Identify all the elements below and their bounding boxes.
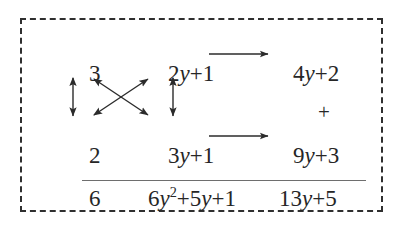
- summation-rule: [82, 180, 366, 181]
- bottom-binomial: 3y+1: [168, 144, 214, 167]
- sum-quadratic-variable: y: [160, 186, 170, 211]
- sum-quadratic-exponent: 2: [170, 184, 177, 200]
- dashed-figure-border: 3 2y+1 4y+2 + 2 3y+1 9y+3 6 6y2+5y+1 13y…: [20, 18, 383, 212]
- top-product-variable: y: [305, 61, 315, 86]
- sum-linear-variable: y: [302, 186, 312, 211]
- sum-left-factor: 6: [89, 187, 101, 210]
- bottom-product: 9y+3: [293, 144, 339, 167]
- bottom-binomial-variable: y: [180, 143, 190, 168]
- top-left-factor: 3: [89, 62, 101, 85]
- plus-operator: +: [318, 102, 330, 123]
- sum-quadratic: 6y2+5y+1: [148, 187, 236, 210]
- bottom-left-factor: 2: [89, 144, 101, 167]
- sum-quadratic-variable-2: y: [201, 186, 211, 211]
- bottom-product-variable: y: [305, 143, 315, 168]
- sum-linear: 13y+5: [279, 187, 337, 210]
- top-binomial-variable: y: [180, 61, 190, 86]
- top-binomial: 2y+1: [168, 62, 214, 85]
- top-product: 4y+2: [293, 62, 339, 85]
